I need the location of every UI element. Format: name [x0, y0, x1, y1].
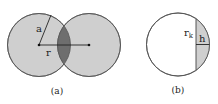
figure-b: rk h (b)	[147, 13, 210, 95]
caption-b: (b)	[172, 85, 185, 95]
distance-label-r: r	[46, 47, 51, 58]
caption-a: (a)	[51, 86, 63, 96]
figure-a: a r (a)	[8, 14, 121, 97]
right-center-dot	[88, 44, 91, 47]
radius-label-a: a	[36, 23, 42, 34]
height-label-h: h	[199, 33, 206, 44]
diagram-canvas: a r (a) rk h (b)	[0, 0, 218, 104]
left-center-dot	[38, 44, 41, 47]
